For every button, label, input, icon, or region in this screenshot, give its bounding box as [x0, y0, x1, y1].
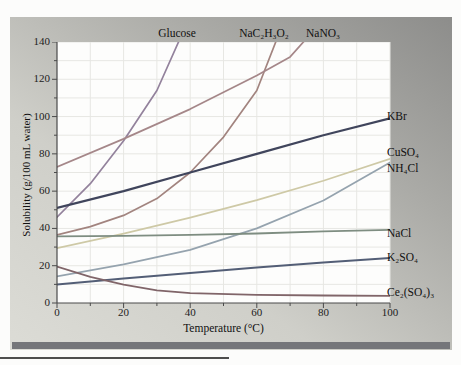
y-tick-label: 120: [18, 72, 50, 84]
figure-bottom-bar: [12, 342, 450, 349]
curve-label-sodium-acetate: NaC₂H₃O₂: [239, 27, 289, 39]
y-tick-label: 20: [18, 259, 50, 271]
x-tick-label: 20: [109, 306, 139, 318]
curve-label-sodium-nitrate: NaNO₃: [306, 27, 340, 39]
y-axis-title: Solubility (g/100 mL water): [20, 113, 32, 236]
curve-label-nacl: NaCl: [387, 227, 411, 239]
x-axis-title: Temperature (°C): [57, 322, 390, 334]
curve-label-cuso4: CuSO₄: [387, 146, 419, 158]
y-tick-label: 80: [18, 147, 50, 159]
page-rule: [0, 357, 229, 359]
y-tick-label: 140: [18, 35, 50, 47]
curve-label-ce2so43: Ce₂(SO₄)₃: [387, 286, 434, 298]
x-tick-label: 100: [375, 306, 405, 318]
y-tick-label: 0: [18, 296, 50, 308]
y-tick-label: 60: [18, 184, 50, 196]
x-tick-label: 60: [242, 306, 272, 318]
x-tick-label: 80: [308, 306, 338, 318]
x-tick-label: 40: [175, 306, 205, 318]
curve-label-glucose: Glucose: [158, 27, 196, 39]
curve-label-k2so4: K₂SO₄: [387, 251, 418, 263]
solubility-figure: Glucose NaC₂H₃O₂ NaNO₃ KBr CuSO₄ NH₄Cl N…: [10, 17, 452, 350]
y-tick-label: 40: [18, 221, 50, 233]
solubility-chart: [50, 42, 392, 311]
curve-label-nh4cl: NH₄Cl: [387, 162, 419, 174]
curve-label-kbr: KBr: [387, 110, 407, 122]
y-tick-label: 100: [18, 110, 50, 122]
